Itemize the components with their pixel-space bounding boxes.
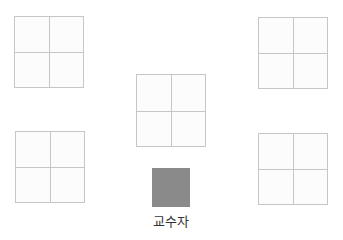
divider bbox=[15, 52, 83, 53]
divider bbox=[137, 111, 205, 112]
divider bbox=[16, 167, 84, 168]
desk-top-right bbox=[258, 17, 328, 89]
desk-bottom-right bbox=[258, 133, 328, 205]
desk-top-left bbox=[14, 16, 84, 88]
divider bbox=[259, 53, 327, 54]
divider bbox=[259, 169, 327, 170]
instructor-label: 교수자 bbox=[131, 211, 211, 230]
desk-center bbox=[136, 74, 206, 147]
desk-bottom-left bbox=[15, 131, 85, 203]
instructor-marker bbox=[152, 168, 190, 207]
